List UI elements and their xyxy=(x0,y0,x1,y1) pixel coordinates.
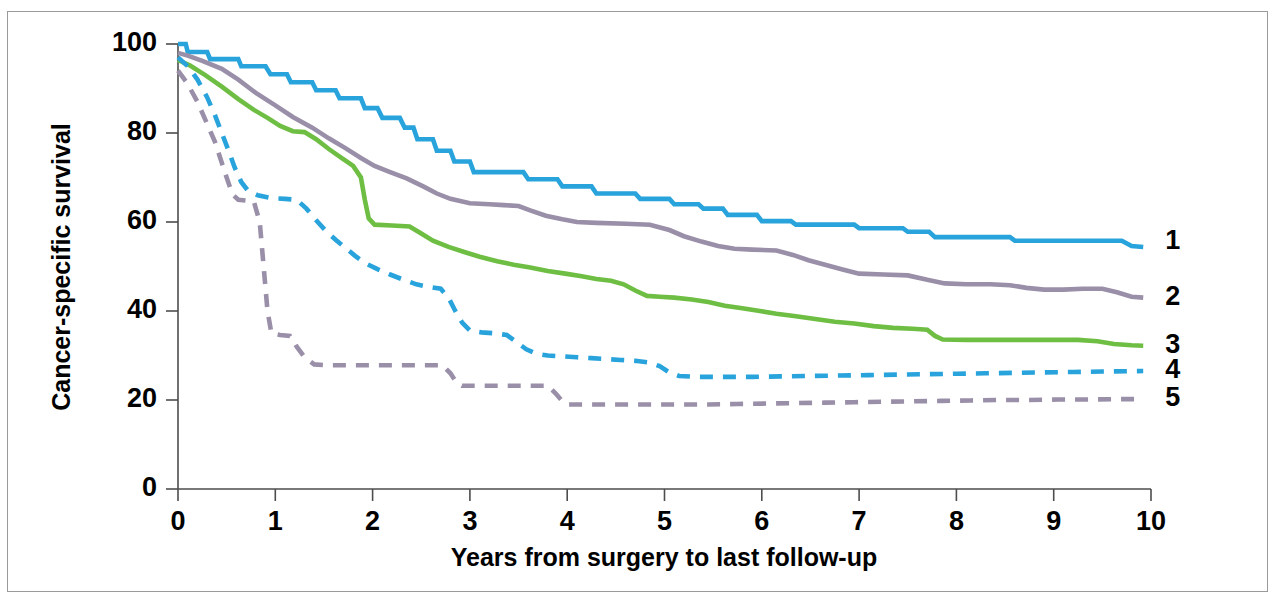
x-tick-label-9: 9 xyxy=(1046,506,1061,536)
survival-curve-chart: 100 80 60 40 20 0 012345678910 Cancer-sp… xyxy=(0,0,1279,606)
y-tick-label-0: 0 xyxy=(142,472,157,502)
x-tick-label-3: 3 xyxy=(462,506,477,536)
x-tick-label-8: 8 xyxy=(949,506,964,536)
x-tick-label-7: 7 xyxy=(852,506,867,536)
x-tick-label-10: 10 xyxy=(1136,506,1166,536)
x-tick-label-4: 4 xyxy=(560,506,575,536)
x-tick-label-1: 1 xyxy=(268,506,283,536)
x-tick-label-5: 5 xyxy=(657,506,672,536)
series-label-2: 2 xyxy=(1165,281,1180,311)
series-group: 12345 xyxy=(178,44,1180,412)
series-label-1: 1 xyxy=(1165,225,1180,255)
y-tick-label-20: 20 xyxy=(127,383,157,413)
y-axis-ticks xyxy=(166,44,178,489)
x-tick-label-6: 6 xyxy=(754,506,769,536)
series-line-4 xyxy=(178,57,1143,377)
series-line-3 xyxy=(178,60,1143,346)
x-axis-ticks: 012345678910 xyxy=(170,489,1166,536)
y-tick-label-60: 60 xyxy=(127,205,157,235)
y-tick-label-80: 80 xyxy=(127,116,157,146)
chart-stage: 100 80 60 40 20 0 012345678910 Cancer-sp… xyxy=(0,0,1279,606)
y-tick-label-100: 100 xyxy=(112,27,157,57)
x-tick-label-0: 0 xyxy=(170,506,185,536)
y-tick-label-40: 40 xyxy=(127,294,157,324)
x-tick-label-2: 2 xyxy=(365,506,380,536)
x-axis-title: Years from surgery to last follow-up xyxy=(451,543,877,571)
series-label-5: 5 xyxy=(1165,382,1180,412)
y-axis-title: Cancer-specific survival xyxy=(47,123,75,411)
series-label-4: 4 xyxy=(1165,354,1180,384)
